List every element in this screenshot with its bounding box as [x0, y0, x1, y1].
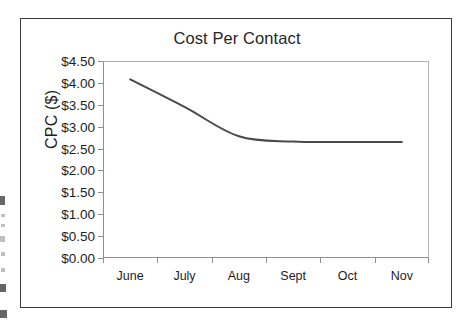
chart-canvas: Cost Per Contact CPC ($) $0.00$0.50$1.00…	[0, 0, 467, 329]
scan-artifact	[0, 196, 5, 205]
y-tick-label: $2.50	[61, 141, 95, 156]
y-tick-label: $0.50	[61, 229, 95, 244]
series-layer	[103, 61, 429, 258]
plot-wrap: $0.00$0.50$1.00$1.50$2.00$2.50$3.00$3.50…	[103, 61, 429, 258]
y-tick-label: $4.50	[61, 54, 95, 69]
series-line-cpc	[130, 79, 402, 142]
y-tick-label: $3.50	[61, 97, 95, 112]
scan-artifact	[1, 224, 5, 227]
x-tick-label: Oct	[338, 269, 357, 283]
x-tick-mark	[320, 258, 321, 263]
scan-artifact	[1, 268, 5, 272]
x-tick-label: Aug	[228, 269, 250, 283]
y-axis-title: CPC ($)	[43, 90, 61, 149]
x-tick-mark	[375, 258, 376, 263]
chart-title: Cost Per Contact	[21, 29, 453, 48]
y-tick-label: $2.00	[61, 163, 95, 178]
scan-artifact	[1, 214, 5, 217]
x-tick-label: June	[117, 269, 144, 283]
scan-artifact	[1, 252, 5, 256]
x-tick-label: Nov	[391, 269, 413, 283]
y-tick-label: $1.50	[61, 185, 95, 200]
y-tick-label: $3.00	[61, 119, 95, 134]
scan-artifact	[0, 284, 6, 292]
x-tick-mark	[428, 258, 429, 263]
x-tick-mark	[157, 258, 158, 263]
figure-frame: Cost Per Contact CPC ($) $0.00$0.50$1.00…	[20, 18, 452, 308]
x-tick-label: Sept	[280, 269, 306, 283]
y-tick-label: $0.00	[61, 251, 95, 266]
scan-artifact	[0, 236, 5, 242]
x-tick-mark	[266, 258, 267, 263]
x-tick-label: July	[173, 269, 195, 283]
x-tick-mark	[103, 258, 104, 263]
y-tick-label: $1.00	[61, 207, 95, 222]
x-tick-mark	[212, 258, 213, 263]
scan-artifact	[0, 310, 7, 318]
y-tick-label: $4.00	[61, 75, 95, 90]
